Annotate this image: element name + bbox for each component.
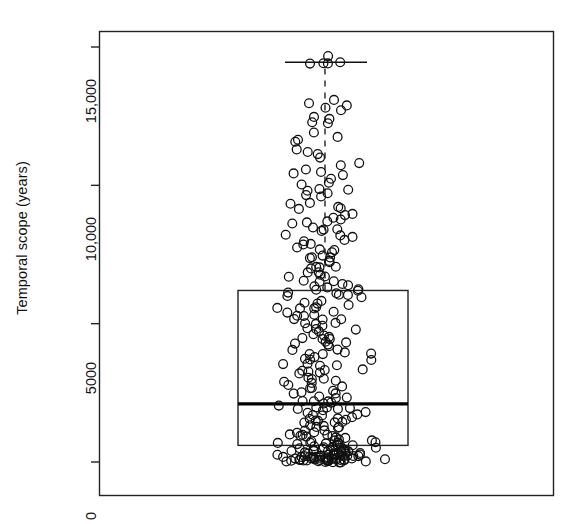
data-point <box>342 338 351 347</box>
data-point <box>303 268 312 277</box>
data-point <box>293 243 302 252</box>
data-point <box>334 405 343 414</box>
data-point <box>321 103 330 112</box>
data-point <box>335 290 344 299</box>
data-point <box>305 99 314 108</box>
data-point <box>333 133 342 142</box>
data-point <box>279 360 288 369</box>
data-point <box>310 310 319 319</box>
data-point <box>346 404 355 413</box>
data-point <box>288 346 297 355</box>
data-point <box>338 382 347 391</box>
data-point <box>299 276 308 285</box>
data-point <box>351 325 360 334</box>
data-point <box>310 128 319 137</box>
data-point <box>333 361 342 370</box>
data-point <box>273 439 282 448</box>
data-point <box>331 319 340 328</box>
data-point <box>358 365 367 374</box>
data-point <box>302 165 311 174</box>
data-point <box>367 356 376 365</box>
data-point <box>357 293 366 302</box>
data-point <box>325 178 334 187</box>
data-point <box>289 389 298 398</box>
data-point <box>336 458 345 467</box>
data-point <box>361 408 370 417</box>
data-point <box>284 381 293 390</box>
data-point <box>355 159 364 168</box>
data-point <box>310 428 319 437</box>
data-point <box>283 308 292 317</box>
data-point <box>318 350 327 359</box>
data-point <box>285 430 294 439</box>
data-point <box>293 405 302 414</box>
data-point <box>290 315 299 324</box>
data-point <box>321 458 330 467</box>
data-point <box>281 230 290 239</box>
data-point <box>336 58 345 67</box>
data-point <box>295 456 304 465</box>
data-point <box>274 401 283 410</box>
data-point <box>292 145 301 154</box>
data-point <box>344 301 353 310</box>
data-point <box>372 443 381 452</box>
data-point <box>344 291 353 300</box>
data-point <box>340 236 349 245</box>
data-point <box>325 342 334 351</box>
data-point <box>324 52 333 61</box>
data-point <box>342 393 351 402</box>
data-point <box>381 455 390 464</box>
data-point <box>331 262 340 271</box>
data-point <box>284 272 293 281</box>
data-point <box>303 148 312 157</box>
data-point <box>295 205 304 214</box>
data-point <box>282 457 291 466</box>
data-point <box>319 374 328 383</box>
data-point <box>339 171 348 180</box>
data-point <box>317 192 326 201</box>
data-point <box>336 215 345 224</box>
data-point <box>324 119 333 128</box>
data-point <box>323 217 332 226</box>
data-point <box>344 185 353 194</box>
data-point <box>337 106 346 115</box>
data-point <box>309 223 318 232</box>
data-point <box>312 285 321 294</box>
data-point <box>309 330 318 339</box>
data-point <box>336 161 345 170</box>
data-point <box>317 227 326 236</box>
data-point <box>329 307 338 316</box>
data-point <box>344 281 353 290</box>
data-point <box>306 254 315 263</box>
data-point <box>273 304 282 313</box>
data-point <box>316 153 325 162</box>
data-point <box>288 219 297 228</box>
data-point <box>306 384 315 393</box>
data-point <box>308 118 317 127</box>
data-point <box>361 457 370 466</box>
data-point <box>295 369 304 378</box>
data-point <box>330 96 339 105</box>
data-point <box>334 423 343 432</box>
data-point <box>323 283 332 292</box>
data-point <box>283 292 292 301</box>
data-point <box>317 168 326 177</box>
data-point <box>286 199 295 208</box>
data-point <box>306 199 315 208</box>
axis-layer <box>91 47 99 462</box>
data-point <box>306 59 315 68</box>
data-point <box>289 169 298 178</box>
data-point <box>340 348 349 357</box>
